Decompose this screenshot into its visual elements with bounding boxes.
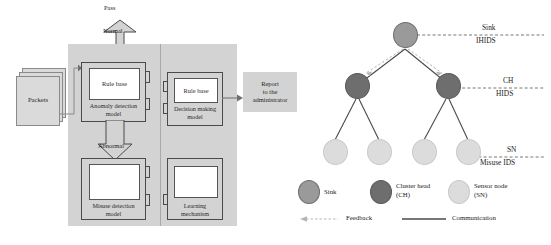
node-sensor-3[interactable] <box>412 139 437 165</box>
anomaly-module-label-line1: Anomaly detection <box>82 102 145 109</box>
learning-module-label-line2: mechanism <box>168 210 222 217</box>
report-to-administrator-box: Report to the administrator <box>243 72 297 112</box>
report-line-3: administrator <box>253 96 288 104</box>
tier-ch-bottom-label: HIDS <box>496 89 513 98</box>
legend-label-sensor-node-line1: Sensor node <box>474 182 507 190</box>
anomaly-connector-tab-lower <box>145 98 150 110</box>
legend-label-cluster-head-line2: (CH) <box>396 191 410 199</box>
legend-feedback-line-icon <box>298 213 342 225</box>
learning-inner-box <box>174 166 218 198</box>
abnormal-arrow-icon <box>98 120 140 162</box>
decision-connector-tab-lower <box>163 103 168 114</box>
misuse-connector-tab-upper <box>145 166 150 178</box>
legend-communication-line-icon <box>400 213 448 225</box>
node-sensor-2[interactable] <box>367 139 392 165</box>
learning-connector-tab <box>163 194 168 205</box>
decision-rule-base-box: Rule base <box>174 78 218 103</box>
tier-sink-top-label: Sink <box>482 23 496 32</box>
right-diagram-wsn-ids-topology: Sink IHIDS CH HIDS SN Misuse IDS Sink Cl… <box>300 0 551 245</box>
legend-label-feedback: Feedback <box>346 214 372 222</box>
normal-label: Normal <box>103 27 123 34</box>
anomaly-detection-module: Rule base Anomaly detection model <box>81 62 146 122</box>
decision-to-report-arrow <box>222 93 244 103</box>
packets-to-anomaly-connector <box>56 62 82 118</box>
decision-rule-base-label: Rule base <box>175 87 217 94</box>
abnormal-label: Abnormal <box>98 142 124 149</box>
misuse-module-label-line2: model <box>82 210 145 217</box>
decision-module-label-line1: Decision making <box>168 105 222 112</box>
node-sink[interactable] <box>393 22 418 48</box>
anomaly-rule-base-box: Rule base <box>89 68 140 100</box>
node-sensor-1[interactable] <box>323 139 348 165</box>
legend-label-communication: Communication <box>452 214 496 222</box>
tier-ch-top-label: CH <box>503 76 513 85</box>
legend-swatch-cluster-head <box>370 180 392 204</box>
tier-sn-bottom-label: Misuse IDS <box>480 158 515 167</box>
tier-sink-bottom-label: IHIDS <box>476 36 496 45</box>
packets-label: Packets <box>16 96 60 103</box>
legend-swatch-sensor-node <box>448 180 470 204</box>
misuse-detection-module: Misuse detection model <box>81 158 146 220</box>
report-line-2: to the <box>253 88 288 96</box>
legend-swatch-sink <box>298 180 320 204</box>
tier-sn-top-label: SN <box>507 145 516 154</box>
panel-divider <box>160 44 161 226</box>
anomaly-module-label-line2: model <box>82 110 145 117</box>
decision-module-label-line2: model <box>168 113 222 120</box>
left-diagram-hybrid-ids-architecture: Pass Normal Packets Rule base Anomaly de… <box>0 0 300 245</box>
anomaly-connector-tab-upper <box>145 71 150 83</box>
node-sensor-4[interactable] <box>456 139 481 165</box>
misuse-module-label-line1: Misuse detection <box>82 202 145 209</box>
learning-mechanism-module: Learning mechanism <box>167 158 223 220</box>
pass-label: Pass <box>104 4 115 11</box>
misuse-rule-base-box <box>89 164 140 200</box>
figure-canvas: Pass Normal Packets Rule base Anomaly de… <box>0 0 551 245</box>
legend-label-sensor-node-line2: (SN) <box>474 191 487 199</box>
decision-connector-tab-upper <box>163 81 168 92</box>
misuse-connector-tab-lower <box>145 194 150 206</box>
legend-label-cluster-head-line1: Cluster head <box>396 182 430 190</box>
node-cluster-head-right[interactable] <box>436 73 461 99</box>
report-line-1: Report <box>253 80 288 88</box>
learning-module-label-line1: Learning <box>168 202 222 209</box>
decision-making-module: Rule base Decision making model <box>167 72 223 126</box>
node-cluster-head-left[interactable] <box>345 73 370 99</box>
anomaly-rule-base-label: Rule base <box>90 80 139 87</box>
legend-label-sink: Sink <box>324 188 336 196</box>
